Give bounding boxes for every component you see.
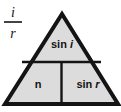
figure-container: sin i n sin r i r xyxy=(0,0,121,112)
triangle-diagram: sin i n sin r i r xyxy=(0,0,121,112)
cell-label-top: sin i xyxy=(51,38,74,50)
cell-label-top-prefix: sin xyxy=(51,38,67,50)
cell-label-bottom-left: n xyxy=(35,78,42,90)
cell-label-bottom-right-variable: r xyxy=(95,78,100,90)
cell-label-bottom-right-prefix: sin xyxy=(76,78,92,90)
cell-label-bottom-right: sin r xyxy=(76,78,100,90)
fraction-denominator: r xyxy=(10,26,16,41)
fraction-numerator: i xyxy=(11,5,15,20)
